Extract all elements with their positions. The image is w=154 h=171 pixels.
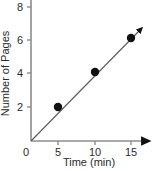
y-tick-label-8: 8: [8, 2, 23, 13]
data-point: [91, 68, 99, 76]
line-chart: 8 6 4 2 0 5 10 15 Time (min) Number of P…: [0, 0, 154, 171]
y-axis-label: Number of Pages: [0, 29, 11, 119]
x-tick-label-15: 15: [125, 147, 137, 158]
x-tick-label-5: 5: [55, 147, 61, 158]
data-point: [127, 34, 135, 42]
data-point: [54, 103, 62, 111]
data-line: [31, 31, 139, 141]
x-axis-label: Time (min): [63, 157, 115, 168]
origin-label: 0: [23, 147, 29, 158]
data-points: [54, 34, 135, 111]
